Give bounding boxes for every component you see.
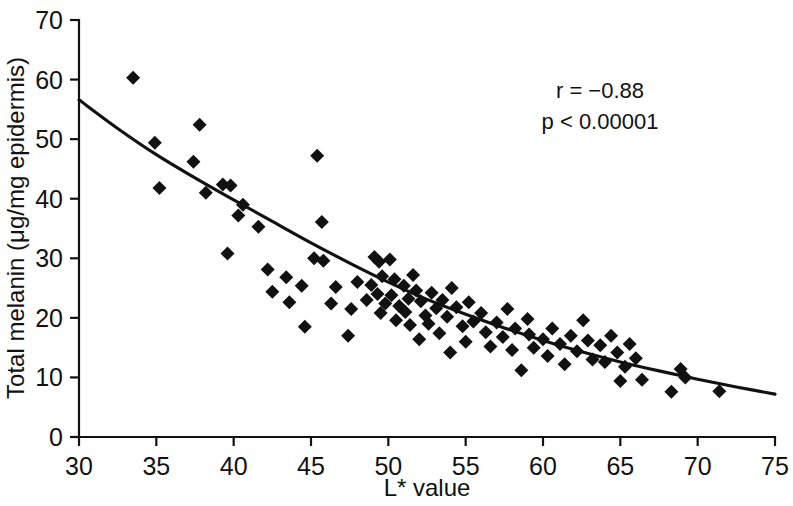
data-point-marker [383,252,397,266]
data-point-marker [459,335,473,349]
data-point-marker [553,337,567,351]
data-point-marker [403,318,417,332]
y-tick-group: 010203040506070 [35,6,79,451]
x-tick-label: 60 [529,452,557,480]
data-point-marker [635,373,649,387]
y-tick-label: 60 [35,66,63,94]
data-point-marker [570,344,584,358]
y-tick-label: 70 [35,6,63,34]
data-point-marker [126,71,140,85]
x-tick-label: 30 [65,452,93,480]
data-point-marker [341,329,355,343]
x-tick-label: 45 [297,452,325,480]
data-point-marker [536,332,550,346]
data-point-marker [251,220,265,234]
correlation-annotation: r = −0.88 [556,78,644,103]
data-point-marker [261,263,275,277]
data-point-marker [186,155,200,169]
data-point-marker [315,215,329,229]
data-point-marker [389,313,403,327]
y-tick-label: 40 [35,185,63,213]
y-tick-label: 20 [35,304,63,332]
y-tick-label: 0 [49,423,63,451]
data-point-marker [443,345,457,359]
data-point-marker [505,343,519,357]
data-point-marker [712,384,726,398]
y-tick-label: 30 [35,244,63,272]
trendline-group [79,100,775,394]
data-point-marker [558,357,572,371]
y-axis-title: Total melanin (μg/mg epidermis) [2,57,29,399]
data-point-marker [462,295,476,309]
data-point-marker [152,181,166,195]
scatter-plot-figure: 010203040506070 30354045505560657075 L* … [0,0,793,506]
data-point-marker [298,320,312,334]
data-point-marker [282,295,296,309]
data-point-marker [610,345,624,359]
data-point-marker [500,302,514,316]
data-point-marker [527,341,541,355]
data-point-marker [564,329,578,343]
data-point-marker [265,285,279,299]
x-tick-label: 35 [142,452,170,480]
fit-curve-path [79,100,775,394]
data-point-marker [329,280,343,294]
data-point-marker [432,326,446,340]
data-point-marker [593,338,607,352]
data-point-marker [581,333,595,347]
x-tick-label: 70 [684,452,712,480]
y-tick-label: 50 [35,125,63,153]
data-point-marker [623,337,637,351]
data-point-marker [522,328,536,342]
data-point-marker [479,325,493,339]
x-axis-title: L* value [384,474,471,501]
data-point-marker [483,339,497,353]
data-point-marker [514,363,528,377]
data-point-marker [541,349,555,363]
data-point-marker [496,330,510,344]
data-point-marker [440,310,454,324]
data-point-marker [344,302,358,316]
data-point-marker [445,281,459,295]
data-point-marker [545,322,559,336]
x-tick-label: 40 [220,452,248,480]
data-point-marker [521,312,535,326]
data-point-marker [613,374,627,388]
data-point-marker [576,313,590,327]
chart-canvas: 010203040506070 30354045505560657075 L* … [0,0,793,506]
data-point-marker [664,385,678,399]
data-point-marker [310,149,324,163]
data-point-marker [412,332,426,346]
data-point-marker [406,268,420,282]
y-tick-label: 10 [35,363,63,391]
data-point-marker [324,297,338,311]
x-tick-label: 75 [761,452,789,480]
data-point-marker [604,329,618,343]
data-point-marker [350,275,364,289]
data-point-marker [295,279,309,293]
data-point-marker [148,136,162,150]
x-tick-label: 65 [606,452,634,480]
data-point-marker [220,247,234,261]
pvalue-annotation: p < 0.00001 [542,109,659,134]
data-point-marker [193,118,207,132]
data-point-marker [279,270,293,284]
